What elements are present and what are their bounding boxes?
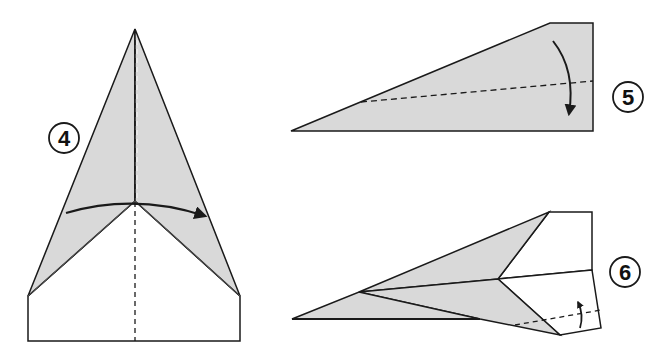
folding-diagram: 4 5 6: [0, 0, 670, 358]
step-6-number: 6: [619, 260, 631, 285]
step-5-figure: 5: [291, 23, 643, 131]
step-4-badge: 4: [49, 123, 79, 153]
step-4-figure: 4: [28, 29, 240, 341]
step-6-badge: 6: [610, 257, 640, 287]
step-4-number: 4: [58, 126, 71, 151]
step-6-figure: 6: [292, 212, 640, 335]
step-5-paper: [291, 23, 593, 131]
step-5-number: 5: [622, 85, 634, 110]
step-5-badge: 5: [613, 82, 643, 112]
